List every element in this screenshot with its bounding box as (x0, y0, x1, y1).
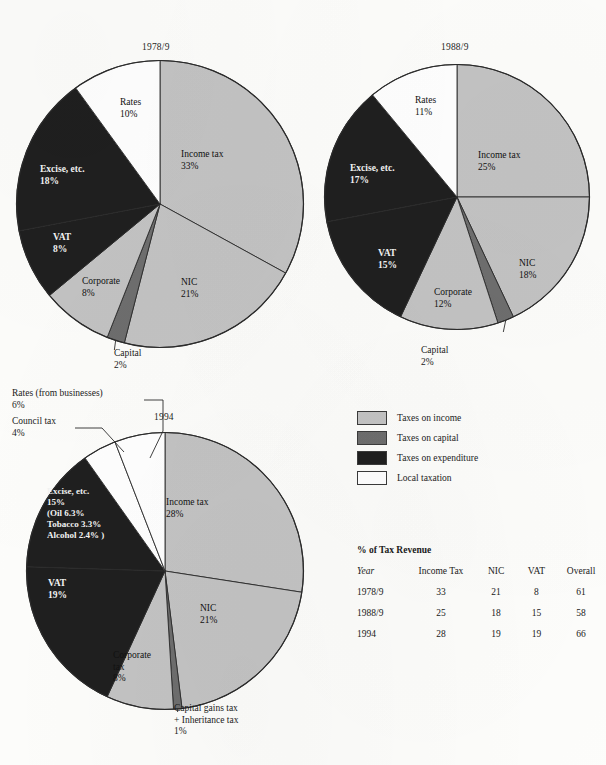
pie3-corporate-line1: Corporate (113, 650, 151, 662)
legend-item-taxes-on-capital: Taxes on capital (357, 428, 478, 448)
pie3-label-vat: VAT 19% (48, 578, 67, 601)
table-cell-income-tax: 28 (406, 629, 475, 650)
pie3-nic-value: 21% (200, 615, 217, 627)
pie3-corporate-value: 8% (113, 673, 151, 685)
legend-swatch-expenditure (357, 451, 387, 465)
table-header-income-tax: Income Tax (406, 566, 475, 587)
pie2-capital-name: Capital (421, 345, 448, 357)
pie-slice (165, 571, 302, 708)
pie3-cgt-value: 1% (174, 726, 238, 738)
chart-legend: Taxes on income Taxes on capital Taxes o… (357, 408, 478, 488)
pie1-label-rates: Rates 10% (120, 97, 141, 120)
pie1-label-vat: VAT 8% (53, 232, 71, 255)
pie3-vat-name: VAT (48, 578, 67, 590)
table-cell-vat: 8 (517, 587, 557, 608)
table-row: 1978/9 33 21 8 61 (357, 587, 606, 608)
pie2-label-nic: NIC 18% (519, 258, 536, 281)
pie-slice (457, 65, 590, 198)
pie-1978-svg (14, 58, 306, 350)
legend-swatch-income (357, 411, 387, 425)
pie1-rates-value: 10% (120, 109, 141, 121)
table-cell-income-tax: 33 (406, 587, 475, 608)
table-cell-overall: 66 (556, 629, 606, 650)
pie1-corporate-name: Corporate (82, 276, 120, 288)
pie1-vat-value: 8% (53, 244, 71, 256)
pie2-label-rates: Rates 11% (415, 95, 436, 118)
pie2-nic-value: 18% (519, 270, 536, 282)
legend-swatch-capital (357, 431, 387, 445)
pie3-label-nic: NIC 21% (200, 603, 217, 626)
table-row: 1988/9 25 18 15 58 (357, 608, 606, 629)
legend-item-taxes-on-expenditure: Taxes on expenditure (357, 448, 478, 468)
table-cell-vat: 15 (517, 608, 557, 629)
legend-label-capital: Taxes on capital (397, 433, 459, 443)
pie2-label-income-tax: Income tax 25% (478, 150, 520, 173)
table-cell-overall: 61 (556, 587, 606, 608)
pie3-nic-name: NIC (200, 603, 217, 615)
pie1-income-tax-value: 33% (181, 161, 223, 173)
table-cell-year: 1978/9 (357, 587, 406, 608)
pie-title-1988: 1988/9 (441, 42, 469, 52)
table-header-vat: VAT (517, 566, 557, 587)
pie2-label-vat: VAT 15% (378, 248, 397, 271)
table-cell-overall: 58 (556, 608, 606, 629)
pie-title-1978: 1978/9 (142, 42, 170, 52)
pie2-income-tax-name: Income tax (478, 150, 520, 162)
page-root: 1978/9 Income tax 33% NIC 21% Capital 2%… (0, 0, 606, 765)
pie2-vat-value: 15% (378, 260, 397, 272)
pie2-excise-name: Excise, etc. (350, 163, 395, 175)
pie3-cgt-line1: Capital gains tax (174, 703, 238, 715)
pie3-vat-value: 19% (48, 590, 67, 602)
pie3-label-cgt: Capital gains tax + Inheritance tax 1% (174, 703, 238, 738)
pie2-excise-value: 17% (350, 175, 395, 187)
legend-label-income: Taxes on income (397, 413, 461, 423)
pie1-label-excise: Excise, etc. 18% (40, 164, 85, 187)
table-header-year: Year (357, 566, 406, 587)
pie1-label-nic: NIC 21% (181, 277, 198, 300)
pie1-excise-name: Excise, etc. (40, 164, 85, 176)
pie1-label-income-tax: Income tax 33% (181, 149, 223, 172)
legend-swatch-local (357, 471, 387, 485)
legend-label-local: Local taxation (397, 473, 452, 483)
pie3-cgt-line2: + Inheritance tax (174, 715, 238, 727)
pie2-capital-value: 2% (421, 357, 448, 369)
pie2-nic-name: NIC (519, 258, 536, 270)
legend-item-taxes-on-income: Taxes on income (357, 408, 478, 428)
table-cell-year: 1994 (357, 629, 406, 650)
table-cell-vat: 19 (517, 629, 557, 650)
tax-revenue-table-block: % of Tax Revenue Year Income Tax NIC VAT… (357, 545, 606, 650)
pie1994-leader-lines (0, 390, 330, 510)
pie3-income-tax-value: 28% (166, 509, 208, 521)
pie1-rates-name: Rates (120, 97, 141, 109)
legend-item-local-taxation: Local taxation (357, 468, 478, 488)
pie1-capital-name: Capital (114, 348, 141, 360)
table-cell-nic: 21 (476, 587, 517, 608)
table-cell-nic: 19 (476, 629, 517, 650)
pie2-corporate-value: 12% (434, 299, 472, 311)
pie2-label-excise: Excise, etc. 17% (350, 163, 395, 186)
table-cell-income-tax: 25 (406, 608, 475, 629)
pie1-nic-value: 21% (181, 289, 198, 301)
pie1-vat-name: VAT (53, 232, 71, 244)
table-row: 1994 28 19 19 66 (357, 629, 606, 650)
tax-revenue-table: Year Income Tax NIC VAT Overall 1978/9 3… (357, 566, 606, 650)
table-header-row: Year Income Tax NIC VAT Overall (357, 566, 606, 587)
table-cell-nic: 18 (476, 608, 517, 629)
pie1-label-capital: Capital 2% (114, 348, 141, 371)
table-header-overall: Overall (556, 566, 606, 587)
legend-label-expenditure: Taxes on expenditure (397, 453, 478, 463)
pie1-income-tax-name: Income tax (181, 149, 223, 161)
pie2-label-capital: Capital 2% (421, 345, 448, 368)
pie1-capital-value: 2% (114, 360, 141, 372)
pie1-nic-name: NIC (181, 277, 198, 289)
pie2-rates-value: 11% (415, 107, 436, 119)
pie1-corporate-value: 8% (82, 288, 120, 300)
table-title: % of Tax Revenue (357, 545, 606, 555)
pie3-excise-detail-tobacco: Tobacco 3.3% (47, 519, 104, 530)
pie1-label-corporate: Corporate 8% (82, 276, 120, 299)
pie2-label-corporate: Corporate 12% (434, 287, 472, 310)
pie3-excise-detail-alcohol: Alcohol 2.4% ) (47, 530, 104, 541)
table-cell-year: 1988/9 (357, 608, 406, 629)
pie2-corporate-name: Corporate (434, 287, 472, 299)
pie1-excise-value: 18% (40, 176, 85, 188)
